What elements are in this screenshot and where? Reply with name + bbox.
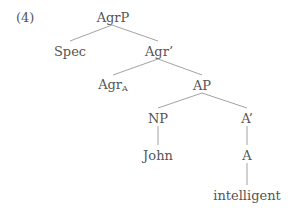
node-agr-a: AgrA: [98, 78, 128, 93]
edge-agrp-agrbar: [112, 25, 158, 41]
tree-edges: [0, 0, 293, 212]
edge-agrbar-ap: [158, 59, 202, 75]
edge-ap-abar: [202, 93, 247, 108]
node-a-bar: A’: [241, 112, 253, 125]
node-agr-bar: Agr’: [145, 45, 173, 58]
node-agr-a-subscript: A: [122, 84, 128, 93]
node-agr-a-label: Agr: [98, 77, 122, 92]
node-ap: AP: [193, 79, 211, 92]
node-np: NP: [148, 112, 168, 125]
syntax-tree-diagram: (4) AgrP Spec Agr’ AgrA AP NP A’ John A …: [0, 0, 293, 212]
node-intelligent: intelligent: [213, 189, 281, 202]
edge-agrbar-agra: [113, 59, 158, 75]
node-agrp: AgrP: [97, 11, 130, 24]
edge-agrp-spec: [70, 25, 112, 41]
example-number: (4): [16, 11, 34, 24]
node-a: A: [242, 149, 251, 162]
node-spec: Spec: [54, 45, 86, 58]
node-john: John: [143, 149, 173, 162]
edge-ap-np: [158, 93, 202, 108]
